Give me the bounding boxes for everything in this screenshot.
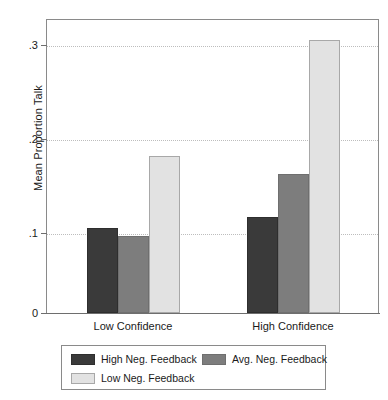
x-tick-label-high-confidence: High Confidence xyxy=(252,320,333,332)
chart-legend: High Neg. Feedback Avg. Neg. Feedback Lo… xyxy=(61,345,326,390)
legend-swatch-low-neg-feedback xyxy=(71,373,95,384)
legend-swatch-avg-neg-feedback xyxy=(202,354,226,365)
y-tick-mark-0.2 xyxy=(41,139,47,140)
y-tick-mark-0.1 xyxy=(41,233,47,234)
y-tick-mark-0 xyxy=(41,313,47,314)
y-tick-label-0.1: .1 xyxy=(29,227,38,239)
y-tick-label-0.2: .2 xyxy=(29,133,38,145)
bar-low-confidence-avg-neg-feedback xyxy=(118,236,149,313)
bar-high-confidence-high-neg-feedback xyxy=(247,217,278,313)
bar-high-confidence-avg-neg-feedback xyxy=(278,174,309,313)
x-tick-label-low-confidence: Low Confidence xyxy=(94,320,173,332)
legend-item-low-neg-feedback: Low Neg. Feedback xyxy=(71,372,194,384)
bar-low-confidence-low-neg-feedback xyxy=(149,156,180,313)
y-tick-label-0.3: .3 xyxy=(29,39,38,51)
plot-area xyxy=(46,19,379,314)
bar-high-confidence-low-neg-feedback xyxy=(309,40,340,313)
bar-chart-figure: Mean Proportion Talk .3 .2 .1 0 Low Conf… xyxy=(0,0,388,400)
y-tick-mark-0.3 xyxy=(41,45,47,46)
legend-item-avg-neg-feedback: Avg. Neg. Feedback xyxy=(202,353,327,365)
legend-label-avg-neg-feedback: Avg. Neg. Feedback xyxy=(232,353,327,365)
legend-label-low-neg-feedback: Low Neg. Feedback xyxy=(101,372,194,384)
legend-swatch-high-neg-feedback xyxy=(71,354,95,365)
x-axis-baseline xyxy=(46,313,380,314)
legend-item-high-neg-feedback: High Neg. Feedback xyxy=(71,353,197,365)
y-axis-spine xyxy=(46,19,47,314)
bar-low-confidence-high-neg-feedback xyxy=(87,228,118,313)
legend-label-high-neg-feedback: High Neg. Feedback xyxy=(101,353,197,365)
y-tick-label-0: 0 xyxy=(32,307,38,319)
